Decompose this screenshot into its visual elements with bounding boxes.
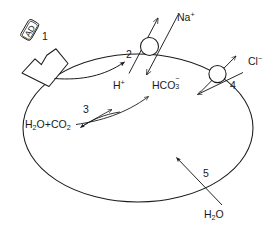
chloride-charge: − [258,54,262,63]
marker-label-2: 2 [126,49,132,60]
water-label: H2O [204,209,224,220]
bicarbonate-count: 3 [175,83,179,90]
chloride-bicarbonate-antiporter [209,65,226,82]
sodium-label: Na+ [177,12,195,23]
water-sub: 2 [212,213,216,222]
water-co2-sub1: 2 [33,123,37,132]
chloride-base: Cl [248,55,258,67]
transporter-2-group [129,15,178,75]
cell-transport-diagram: AD 1 2 3 4 5 Na+ H+ HCO−33 Cl− H2O+CO2 H… [0,0,276,230]
sodium-proton-antiporter [141,38,159,56]
proton-label: H+ [113,80,125,91]
water-co2-h: H [25,118,33,130]
marker-label-4: 4 [230,80,236,91]
water-co2-sub2: 2 [67,123,71,132]
receptor-group [22,49,68,87]
membrane-receptor [22,49,68,87]
water-h: H [204,208,212,220]
marker-label-3: 3 [83,104,89,115]
chloride-label: Cl− [248,56,262,67]
bicarbonate-base: HCO [152,79,175,91]
water-influx-arrow [177,158,223,206]
water-co2-label: H2O+CO2 [25,119,71,130]
sodium-base: Na [177,11,190,23]
proton-charge: + [121,78,125,87]
water-o: O [216,208,224,220]
marker-label-1: 1 [42,31,48,42]
bicarbonate-charge-stack: −33 [175,80,179,91]
marker-label-5: 5 [203,168,209,179]
water-co2-mid: O+CO [37,118,67,130]
proton-base: H [113,79,121,91]
water-entry-group [177,158,223,206]
bicarbonate-label: HCO−33 [152,80,179,91]
sodium-charge: + [190,10,194,19]
